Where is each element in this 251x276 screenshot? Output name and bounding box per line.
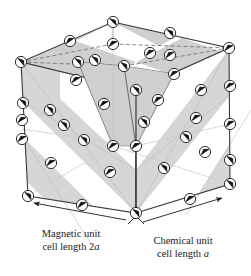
caption-magnetic-symbol: a	[94, 241, 99, 252]
atom-spin-marker	[164, 49, 175, 60]
atom-spin-marker	[64, 35, 75, 46]
caption-chemical-prefix: cell length	[157, 248, 204, 259]
atom-spin-marker	[184, 193, 195, 204]
atom-spin-marker	[104, 166, 115, 177]
atom-spin-marker	[223, 42, 234, 53]
atom-spin-marker	[70, 74, 81, 85]
caption-chemical-symbol: a	[204, 248, 209, 259]
atom-spin-marker	[17, 97, 28, 108]
atom-spin-marker	[158, 162, 169, 173]
atom-spin-marker	[44, 104, 55, 115]
caption-magnetic-line1: Magnetic unit	[18, 228, 124, 241]
atom-spin-marker	[78, 134, 89, 145]
caption-chemical-line2: cell length a	[130, 248, 236, 261]
atom-spin-marker	[98, 98, 109, 109]
atom-spin-marker	[224, 80, 235, 91]
atom-spin-marker	[107, 16, 118, 27]
atom-spin-marker	[107, 38, 118, 49]
atom-spin-marker	[168, 68, 179, 79]
atom-spin-marker	[190, 112, 201, 123]
caption-magnetic-line2: cell length 2a	[18, 241, 124, 254]
atom-spin-marker	[58, 119, 69, 130]
caption-chemical-unit-cell: Chemical unit cell length a	[130, 235, 236, 260]
atom-spin-marker	[138, 116, 149, 127]
atom-spin-marker	[144, 47, 155, 58]
atom-spin-marker	[152, 94, 163, 105]
atom-spin-marker	[164, 27, 175, 38]
atom-spin-marker	[15, 56, 26, 67]
atom-spin-marker	[180, 131, 191, 142]
atom-spin-marker	[118, 60, 129, 71]
atom-spin-marker	[195, 84, 206, 95]
atom-spin-marker	[224, 118, 235, 129]
atom-spin-marker	[16, 133, 27, 144]
atom-spin-marker	[199, 146, 210, 157]
caption-magnetic-prefix: cell length 2	[42, 241, 94, 252]
atom-spin-marker	[16, 114, 27, 125]
caption-magnetic-unit-cell: Magnetic unit cell length 2a	[18, 228, 124, 253]
atom-spin-marker	[22, 190, 33, 201]
atom-spin-marker	[130, 207, 141, 218]
atom-spin-marker	[224, 178, 235, 189]
atom-spin-marker	[72, 56, 83, 67]
atom-spin-marker	[89, 54, 100, 65]
atom-spin-marker	[45, 157, 56, 168]
atom-spin-marker	[130, 140, 141, 151]
atom-spin-marker	[224, 154, 235, 165]
atom-spin-marker	[76, 199, 87, 210]
atom-spin-marker	[107, 140, 118, 151]
atom-spin-marker	[130, 84, 141, 95]
caption-chemical-line1: Chemical unit	[130, 235, 236, 248]
